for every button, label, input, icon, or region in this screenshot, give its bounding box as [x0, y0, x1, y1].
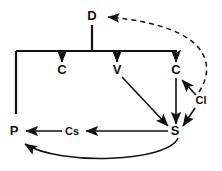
node-label-v: V [113, 62, 122, 77]
edge-cl-to-s [183, 108, 195, 126]
node-label-c-right: C [171, 62, 181, 77]
node-label-s: S [171, 123, 180, 138]
node-label-cs: Cs [65, 125, 79, 137]
edge-cl-to-d [108, 17, 207, 92]
edge-s-to-p-recycle [25, 138, 178, 158]
edge-v-to-s [122, 77, 168, 126]
diagram-svg: D C V C Cl P Cs S [0, 0, 222, 171]
node-label-p: P [10, 123, 19, 138]
node-label-cl: Cl [196, 94, 207, 106]
diagram-canvas: D C V C Cl P Cs S [0, 0, 222, 171]
node-label-d: D [87, 8, 96, 23]
node-label-c-left: C [57, 62, 67, 77]
edge-cl-to-c2 [182, 80, 196, 95]
